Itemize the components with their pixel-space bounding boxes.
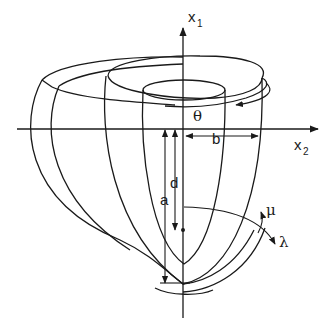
- x1-label: x: [188, 8, 196, 25]
- lambda-label: λ: [279, 233, 289, 251]
- a-label: a: [160, 191, 169, 208]
- diagram-canvas: x 1 x 2 θ b d a μ λ: [0, 0, 336, 331]
- theta-label: θ: [193, 107, 202, 125]
- mu-label: μ: [266, 201, 276, 219]
- x2-subscript: 2: [303, 146, 309, 157]
- outer-shell: [31, 57, 183, 284]
- focus-point: [181, 228, 185, 232]
- x1-subscript: 1: [197, 18, 203, 29]
- mu-arrow: [258, 212, 262, 233]
- b-label: b: [212, 130, 220, 147]
- apex-arcs: [155, 228, 265, 294]
- d-label: d: [170, 174, 178, 191]
- prolate-spheroidal-diagram: x 1 x 2 θ b d a μ λ: [0, 0, 336, 331]
- inner-shell: [142, 80, 225, 264]
- x2-label: x: [294, 136, 302, 153]
